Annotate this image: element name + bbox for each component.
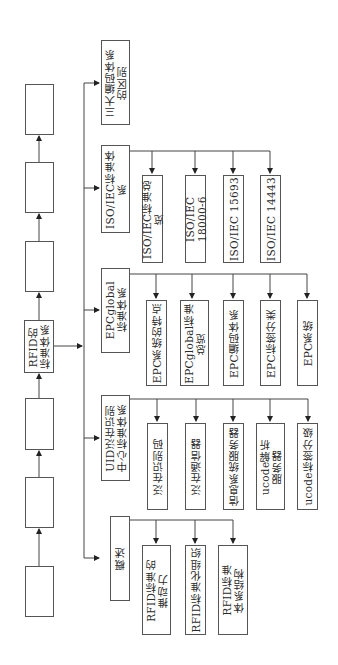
uid-child-2: 泛在通信器	[185, 423, 206, 510]
iso-child-4: ISO/IEC 14443	[260, 175, 281, 263]
category-coding-diff: 三大编码体系 的区别	[101, 40, 130, 125]
epc-child-3: EPC编码体系	[223, 300, 244, 386]
chain-box-2	[25, 162, 54, 213]
chain-box-3	[25, 241, 54, 292]
iso-child-1: ISO/IEC标准总览	[142, 175, 163, 263]
chain-box-5	[25, 477, 54, 528]
iso-child-2: ISO/IEC 18000-6	[185, 175, 206, 263]
category-overview: 概述	[110, 516, 130, 601]
category-iso-iec: ISO/IEC标准体系	[101, 145, 130, 233]
epc-child-2: EPCglobal标准 总览	[180, 300, 209, 386]
root-label: RFID的 标准体系	[27, 324, 51, 369]
epc-child-1: EPC系统的特点	[146, 300, 167, 386]
epc-child-5: EPC系统	[297, 300, 318, 386]
chain-box-1	[25, 84, 54, 135]
category-uid: UID泛在识别 中心标准体系	[101, 395, 130, 481]
overview-child-1: RFID标准的 推动力	[142, 545, 171, 635]
overview-child-2: RFID标准化组织	[185, 545, 206, 635]
chain-box-4	[25, 398, 54, 450]
iso-child-3: ISO/IEC 15693	[223, 175, 244, 263]
chain-box-6	[25, 566, 54, 617]
uid-child-1: 泛在识别码	[147, 423, 168, 510]
uid-child-5: ucode标签分级	[297, 423, 318, 510]
uid-child-4: ucode解析 服务器	[256, 423, 285, 510]
root-box: RFID的 标准体系	[24, 320, 54, 373]
overview-child-3: RFID标准 体系结构	[218, 545, 248, 635]
uid-child-3: 信息系统服务器	[223, 423, 244, 510]
category-epcglobal: EPCglobal 标准体系	[101, 268, 130, 353]
epc-child-4: EPC标签分类	[260, 300, 281, 386]
